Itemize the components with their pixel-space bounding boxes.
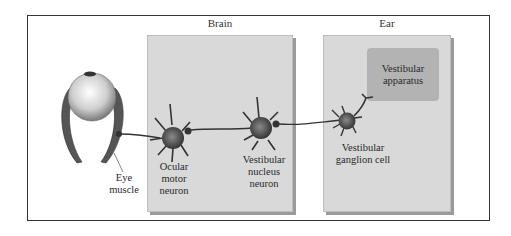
vestibular-ganglion-cell-label: Vestibular ganglion cell	[328, 142, 398, 166]
pupil-icon	[84, 72, 96, 77]
vestibular-nucleus-neuron-label: Vestibular nucleus neuron	[236, 154, 292, 190]
eye-muscle-label: Eye muscle	[104, 172, 144, 196]
vestibular-ganglion-cell-icon	[332, 94, 373, 136]
neural-pathway-art	[0, 0, 511, 236]
eyeball-icon	[68, 73, 116, 121]
ocular-motor-neuron-label: Ocular motor neuron	[152, 161, 196, 197]
vestibular-apparatus-label: Vestibular apparatus	[367, 63, 439, 87]
ocular-motor-neuron-icon	[150, 104, 190, 162]
